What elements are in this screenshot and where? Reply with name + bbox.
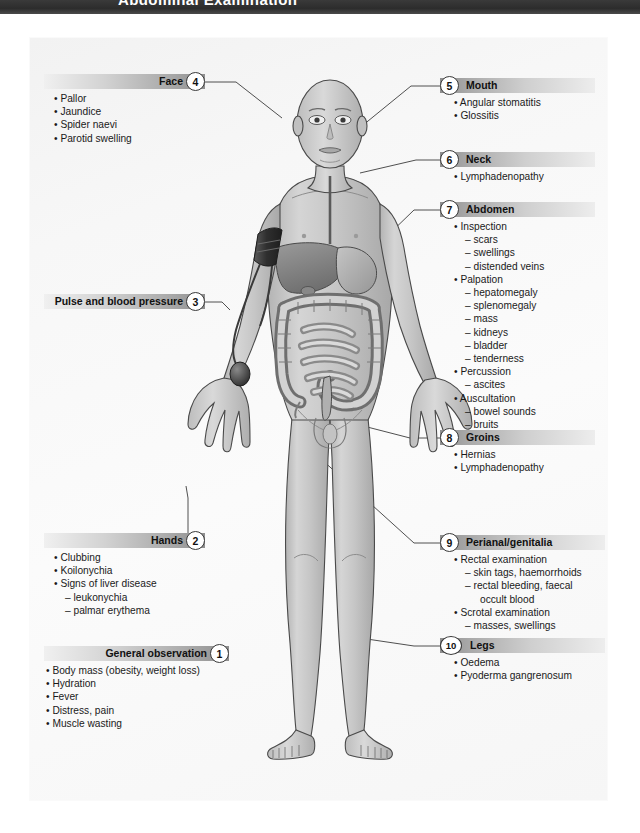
list-item: – palmar erythema: [54, 604, 205, 617]
callout-groins[interactable]: Groins 8 • Hernias • Lymphadenopathy: [440, 430, 595, 474]
callout-items: • Hernias • Lymphadenopathy: [454, 448, 595, 474]
list-item: • Spider naevi: [54, 118, 205, 131]
list-item: • Body mass (obesity, weight loss): [46, 664, 229, 677]
callout-number: 10: [440, 636, 462, 655]
list-item: • Angular stomatitis: [454, 96, 595, 109]
callout-header-pulse-blood-pressure: Pulse and blood pressure 3: [44, 294, 205, 309]
callout-header-legs: Legs 10: [440, 638, 605, 653]
callout-header-mouth: Mouth 5: [440, 78, 595, 93]
callout-header-perianal-genitalia: Perianal/genitalia 9: [440, 535, 605, 550]
callout-hands[interactable]: Hands 2 • Clubbing • Koilonychia • Signs…: [44, 533, 205, 617]
callout-perianal-genitalia[interactable]: Perianal/genitalia 9 • Rectal examinatio…: [440, 535, 605, 632]
callout-number: 4: [186, 72, 205, 91]
callout-number: 1: [210, 644, 229, 663]
list-item: occult blood: [454, 593, 605, 606]
diagram-panel: Face 4 • Pallor • Jaundice • Spider naev…: [30, 38, 607, 800]
callout-face[interactable]: Face 4 • Pallor • Jaundice • Spider naev…: [44, 74, 205, 145]
list-item: • Percussion: [454, 365, 595, 378]
callout-header-general-observation: General observation 1: [44, 646, 229, 661]
list-item: – distended veins: [454, 260, 595, 273]
list-item: – ascites: [454, 378, 595, 391]
list-item: – mass: [454, 312, 595, 325]
list-item: – splenomegaly: [454, 299, 595, 312]
list-item: • Scrotal examination: [454, 606, 605, 619]
list-item: – swellings: [454, 246, 595, 259]
callout-number: 5: [440, 76, 459, 95]
callout-title: Pulse and blood pressure: [55, 294, 205, 309]
callout-title: Mouth: [466, 78, 498, 93]
callout-items: • Inspection – scars – swellings – diste…: [454, 220, 595, 431]
callout-items: • Oedema • Pyoderma gangrenosum: [454, 656, 605, 682]
callout-items: • Body mass (obesity, weight loss) • Hyd…: [46, 664, 229, 730]
list-item: • Glossitis: [454, 109, 595, 122]
list-item: • Muscle wasting: [46, 717, 229, 730]
callout-abdomen[interactable]: Abdomen 7 • Inspection – scars – swellin…: [440, 202, 595, 431]
callout-items: • Angular stomatitis • Glossitis: [454, 96, 595, 122]
callout-items: • Pallor • Jaundice • Spider naevi • Par…: [54, 92, 205, 145]
list-item: • Lymphadenopathy: [454, 170, 595, 183]
list-item: – bladder: [454, 339, 595, 352]
callout-title: Abdomen: [466, 202, 514, 217]
list-item: – masses, swellings: [454, 619, 605, 632]
callout-number: 7: [440, 200, 459, 219]
list-item: – bowel sounds: [454, 405, 595, 418]
list-item: • Oedema: [454, 656, 605, 669]
callout-number: 3: [186, 292, 205, 311]
callout-header-hands: Hands 2: [44, 533, 205, 548]
callout-number: 6: [440, 150, 459, 169]
callout-header-groins: Groins 8: [440, 430, 595, 445]
callout-items: • Lymphadenopathy: [454, 170, 595, 183]
page-title: Abdominal Examination: [118, 0, 297, 8]
callout-header-neck: Neck 6: [440, 152, 595, 167]
callout-neck[interactable]: Neck 6 • Lymphadenopathy: [440, 152, 595, 183]
callout-pulse-blood-pressure[interactable]: Pulse and blood pressure 3: [44, 294, 205, 309]
list-item: • Pallor: [54, 92, 205, 105]
callout-number: 8: [440, 428, 459, 447]
list-item: • Hernias: [454, 448, 595, 461]
list-item: • Rectal examination: [454, 553, 605, 566]
callout-items: • Rectal examination – skin tags, haemor…: [454, 553, 605, 632]
callout-title: Neck: [466, 152, 491, 167]
callout-general-observation[interactable]: General observation 1 • Body mass (obesi…: [44, 646, 229, 730]
list-item: – hepatomegaly: [454, 286, 595, 299]
list-item: • Koilonychia: [54, 564, 205, 577]
list-item: – tenderness: [454, 352, 595, 365]
list-item: • Inspection: [454, 220, 595, 233]
callout-legs[interactable]: Legs 10 • Oedema • Pyoderma gangrenosum: [440, 638, 605, 682]
list-item: – rectal bleeding, faecal: [454, 579, 605, 592]
list-item: • Fever: [46, 690, 229, 703]
page-header-bar: Abdominal Examination: [0, 0, 640, 14]
callout-header-abdomen: Abdomen 7: [440, 202, 595, 217]
callout-title: Legs: [470, 638, 495, 653]
list-item: • Auscultation: [454, 392, 595, 405]
callout-title: Groins: [466, 430, 500, 445]
list-item: • Distress, pain: [46, 704, 229, 717]
list-item: – skin tags, haemorrhoids: [454, 566, 605, 579]
callout-header-face: Face 4: [44, 74, 205, 89]
list-item: • Palpation: [454, 273, 595, 286]
callout-number: 9: [440, 533, 459, 552]
list-item: • Hydration: [46, 677, 229, 690]
callout-items: • Clubbing • Koilonychia • Signs of live…: [54, 551, 205, 617]
list-item: • Lymphadenopathy: [454, 461, 595, 474]
list-item: • Clubbing: [54, 551, 205, 564]
list-item: • Pyoderma gangrenosum: [454, 669, 605, 682]
list-item: • Parotid swelling: [54, 132, 205, 145]
list-item: – scars: [454, 233, 595, 246]
list-item: – kidneys: [454, 326, 595, 339]
callout-title: Perianal/genitalia: [466, 535, 552, 550]
callout-mouth[interactable]: Mouth 5 • Angular stomatitis • Glossitis: [440, 78, 595, 122]
list-item: – leukonychia: [54, 591, 205, 604]
callout-number: 2: [186, 531, 205, 550]
list-item: • Jaundice: [54, 105, 205, 118]
list-item: • Signs of liver disease: [54, 577, 205, 590]
